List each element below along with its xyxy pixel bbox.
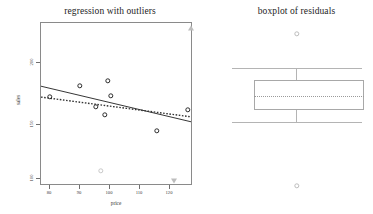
boxplot-median-line — [254, 96, 364, 97]
ytick-label: 100 — [29, 175, 34, 182]
boxplot-panel-title: boxplot of residuals — [220, 6, 373, 16]
boxplot-area — [232, 22, 362, 197]
xtick-label: 120 — [166, 190, 173, 195]
whisker-cap-lower — [232, 122, 362, 123]
ytick-mark — [36, 124, 40, 125]
xtick-label: 100 — [106, 190, 113, 195]
outlier-marker-bottom — [171, 179, 177, 184]
xtick-mark — [49, 185, 50, 189]
xtick-mark — [139, 185, 140, 189]
boxplot-outlier — [294, 183, 299, 188]
xtick-label: 80 — [47, 190, 52, 195]
xtick-label: 110 — [136, 190, 143, 195]
scatter-plot-area — [41, 23, 191, 184]
scatter-panel-title: regression with outliers — [0, 6, 220, 16]
scatter-plot-frame — [40, 22, 192, 185]
ytick-mark — [36, 62, 40, 63]
x-axis-title: price — [40, 200, 192, 206]
whisker-stem-upper — [296, 68, 297, 80]
whisker-stem-lower — [296, 110, 297, 123]
whisker-cap-upper — [232, 68, 362, 69]
robust-fit-line — [41, 97, 191, 117]
ols-fit-line — [41, 86, 191, 122]
scatter-panel: regression with outliers — [0, 0, 220, 214]
boxplot-box — [254, 80, 364, 110]
ytick-mark — [36, 178, 40, 179]
figure-canvas: regression with outliers — [0, 0, 373, 214]
xtick-mark — [79, 185, 80, 189]
xtick-label: 90 — [77, 190, 82, 195]
xtick-mark — [109, 185, 110, 189]
y-axis-title: sales — [15, 95, 21, 105]
regression-lines — [41, 23, 191, 184]
outlier-marker-top — [188, 26, 194, 31]
boxplot-panel: boxplot of residuals — [220, 0, 373, 214]
ytick-label: 150 — [29, 121, 34, 128]
boxplot-outlier — [294, 31, 299, 36]
ytick-label: 200 — [29, 59, 34, 66]
xtick-mark — [169, 185, 170, 189]
